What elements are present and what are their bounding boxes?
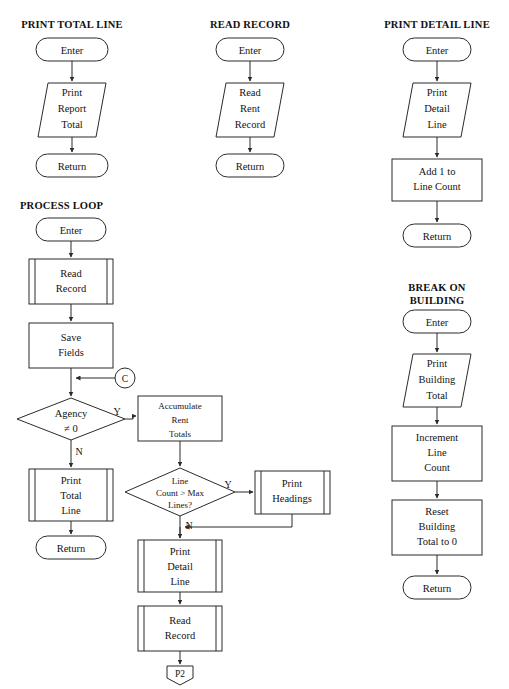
node-label: Enter [60,225,83,236]
node-label-line2: Record [165,630,196,641]
predefined-shape [29,259,113,304]
node-bob-increment[interactable]: Increment Line Count [392,426,482,481]
node-label: Return [236,161,265,172]
edge-label-linecount-yes: Y [224,479,231,490]
node-label-line3: Lines? [168,500,192,510]
node-label: Return [423,231,452,242]
node-bob-enter[interactable]: Enter [403,310,471,333]
node-label-line3: Line [427,119,447,130]
node-label-line1: Print [427,87,448,98]
node-label-line1: Print [282,478,303,489]
node-label-line2: Record [56,283,87,294]
node-pl-read-record[interactable]: Read Record [29,259,113,304]
edge-label-linecount-no: N [185,520,192,531]
node-label: Return [423,583,452,594]
node-label: Return [57,543,86,554]
node-label-line3: Line [170,576,190,587]
node-label-line3: Total [426,390,448,401]
node-label-line2: Detail [167,561,193,572]
node-label-line3: Total [61,119,83,130]
node-label-line3: Totals [169,429,191,439]
node-label-line1: Print [62,87,83,98]
node-label-line2: ≠ 0 [64,423,78,434]
node-label: Enter [61,45,84,56]
node-rr-read-rent-record[interactable]: Read Rent Record [216,83,284,137]
node-pdl-add-1[interactable]: Add 1 to Line Count [392,159,482,201]
node-label-line2: Building [419,374,457,385]
flowchart-canvas: PRINT TOTAL LINE Enter Print Report Tota… [0,0,509,689]
predefined-shape [138,606,222,651]
section-title-process-loop: PROCESS LOOP [20,200,104,211]
node-pl-print-detail-line[interactable]: Print Detail Line [138,540,222,592]
node-ptl-print-report-total[interactable]: Print Report Total [38,83,106,137]
node-label-line2: Rent [172,415,189,425]
node-label-line2: Headings [272,493,312,504]
node-label-line3: Line [61,505,81,516]
node-label: Return [58,161,87,172]
node-label-line3: Record [235,119,266,130]
node-pdl-enter[interactable]: Enter [403,38,471,61]
node-rr-enter[interactable]: Enter [216,38,284,61]
node-pl-print-headings[interactable]: Print Headings [255,471,330,514]
section-title-read-record: READ RECORD [210,19,290,30]
node-pl-accumulate[interactable]: Accumulate Rent Totals [138,396,222,441]
section-read-record: READ RECORD Enter Read Rent Record Retur… [210,19,290,177]
node-pl-agency[interactable]: Agency ≠ 0 [17,398,125,440]
edge-label-agency-yes: Y [113,406,120,417]
node-ptl-return[interactable]: Return [36,154,108,177]
edge-label-agency-no: N [75,446,82,457]
node-label: C [122,374,128,384]
node-pl-offpage-p2[interactable]: P2 [167,666,193,685]
node-label-line2: Report [58,103,87,114]
node-pl-print-total-line[interactable]: Print Total Line [29,469,113,521]
section-break-on-building: BREAK ON BUILDING Enter Print Building T… [392,282,482,599]
node-label-line1: Print [170,546,191,557]
node-ptl-enter[interactable]: Enter [36,38,108,61]
node-label-line1: Print [61,475,82,486]
node-label: Enter [239,45,262,56]
section-print-detail-line: PRINT DETAIL LINE Enter Print Detail Lin… [384,19,490,247]
node-pdl-return[interactable]: Return [403,224,471,247]
section-title-print-total-line: PRINT TOTAL LINE [21,19,123,30]
section-print-total-line: PRINT TOTAL LINE Enter Print Report Tota… [21,19,123,177]
node-label-line1: Line [172,476,189,486]
section-title-break-on-building-line2: BUILDING [410,295,465,306]
node-label-line2: Fields [58,347,84,358]
node-pdl-print-detail-line[interactable]: Print Detail Line [403,83,471,137]
node-label-line3: Total to 0 [417,536,457,547]
node-label-line3: Count [424,462,450,473]
node-label-line1: Read [60,268,82,279]
node-pl-read-record-2[interactable]: Read Record [138,606,222,651]
node-pl-line-count[interactable]: Line Count > Max Lines? [125,468,235,516]
node-label: Enter [426,317,449,328]
node-label-line1: Read [169,615,191,626]
process-shape [29,323,113,368]
section-title-print-detail-line: PRINT DETAIL LINE [384,19,490,30]
node-pl-connector-c[interactable]: C [115,368,135,388]
node-rr-return[interactable]: Return [216,154,284,177]
node-pl-enter[interactable]: Enter [36,218,106,241]
node-label-line2: Building [419,521,457,532]
node-label-line1: Add 1 to [419,166,456,177]
node-label-line1: Reset [425,506,448,517]
node-label-line2: Line [427,447,447,458]
node-label-line2: Detail [424,103,450,114]
node-label-line2: Rent [240,103,260,114]
node-bob-print-building-total[interactable]: Print Building Total [403,354,471,407]
node-label-line1: Print [427,358,448,369]
node-label-line1: Save [61,332,82,343]
node-label: Enter [426,45,449,56]
node-label: P2 [175,669,185,679]
node-pl-save-fields[interactable]: Save Fields [29,323,113,368]
node-label-line1: Accumulate [158,401,201,411]
node-bob-return[interactable]: Return [403,576,471,599]
node-label-line1: Read [239,87,261,98]
node-label-line2: Total [60,490,82,501]
node-pl-return[interactable]: Return [36,536,106,559]
node-bob-reset[interactable]: Reset Building Total to 0 [392,500,482,555]
node-label-line2: Line Count [413,181,461,192]
node-label-line1: Agency [55,408,88,419]
node-label-line2: Count > Max [156,488,205,498]
section-process-loop: PROCESS LOOP Enter Read Record Save Fiel… [17,200,330,685]
section-title-break-on-building-line1: BREAK ON [408,282,466,293]
